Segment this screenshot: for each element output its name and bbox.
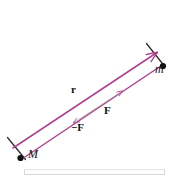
mass-M-label: M [28,148,38,160]
mass-m-label: m [155,63,164,75]
mass-M-point [17,155,23,161]
r-vector-lower-arrow [21,65,164,161]
figure-container: M m r F −F [0,0,173,177]
force-on-M-label: −F [71,122,84,133]
separation-vector-label: r [71,84,76,95]
r-vector-upper-arrow [13,53,157,149]
force-pair-line [74,91,123,123]
figure-baseline-rule [24,169,165,175]
vector-diagram-svg [0,0,173,177]
force-on-m-label: F [104,105,111,116]
